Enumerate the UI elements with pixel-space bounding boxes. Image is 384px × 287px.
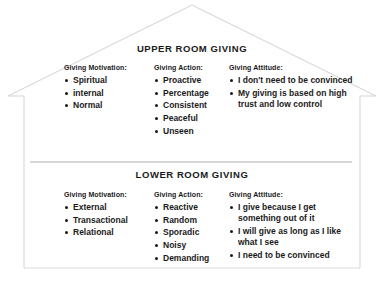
upper-room-title: UPPER ROOM GIVING bbox=[0, 43, 384, 54]
upper-room-columns: Giving Motivation: Spiritual internal No… bbox=[64, 64, 354, 139]
list-item: I don't need to be convinced bbox=[229, 75, 354, 86]
list-item: internal bbox=[64, 88, 154, 99]
list-item: I need to be convinced bbox=[229, 250, 354, 261]
lower-action-list: Reactive Random Sporadic Noisy Demanding bbox=[154, 202, 229, 266]
list-item: Random bbox=[154, 215, 229, 226]
list-item: My giving is based on high trust and low… bbox=[229, 88, 354, 110]
upper-motivation-list: Spiritual internal Normal bbox=[64, 75, 154, 113]
upper-attitude-heading: Giving Attitude: bbox=[229, 64, 354, 71]
list-item: Percentage bbox=[154, 88, 229, 99]
lower-column-action: Giving Action: Reactive Random Sporadic … bbox=[154, 191, 229, 266]
list-item: I will give as long as I like what I see bbox=[229, 226, 354, 248]
list-item: Spiritual bbox=[64, 75, 154, 86]
upper-column-action: Giving Action: Proactive Percentage Cons… bbox=[154, 64, 229, 139]
list-item: Unseen bbox=[154, 126, 229, 137]
upper-column-motivation: Giving Motivation: Spiritual internal No… bbox=[64, 64, 154, 113]
upper-motivation-heading: Giving Motivation: bbox=[64, 64, 154, 71]
list-item: External bbox=[64, 202, 154, 213]
lower-column-motivation: Giving Motivation: External Transactiona… bbox=[64, 191, 154, 240]
list-item: Peaceful bbox=[154, 113, 229, 124]
upper-action-list: Proactive Percentage Consistent Peaceful… bbox=[154, 75, 229, 139]
list-item: Transactional bbox=[64, 215, 154, 226]
house-diagram: UPPER ROOM GIVING Giving Motivation: Spi… bbox=[0, 0, 384, 287]
lower-room-title: LOWER ROOM GIVING bbox=[0, 169, 384, 180]
list-item: Proactive bbox=[154, 75, 229, 86]
list-item: Relational bbox=[64, 227, 154, 238]
list-item: Consistent bbox=[154, 100, 229, 111]
upper-action-heading: Giving Action: bbox=[154, 64, 229, 71]
lower-action-heading: Giving Action: bbox=[154, 191, 229, 198]
lower-column-attitude: Giving Attitude: I give because I get so… bbox=[229, 191, 354, 263]
upper-attitude-list: I don't need to be convinced My giving i… bbox=[229, 75, 354, 112]
lower-attitude-list: I give because I get something out of it… bbox=[229, 202, 354, 263]
lower-room-columns: Giving Motivation: External Transactiona… bbox=[64, 191, 354, 266]
upper-column-attitude: Giving Attitude: I don't need to be conv… bbox=[229, 64, 354, 112]
lower-motivation-heading: Giving Motivation: bbox=[64, 191, 154, 198]
list-item: Demanding bbox=[154, 253, 229, 264]
lower-attitude-heading: Giving Attitude: bbox=[229, 191, 354, 198]
list-item: I give because I get something out of it bbox=[229, 202, 354, 224]
list-item: Reactive bbox=[154, 202, 229, 213]
list-item: Normal bbox=[64, 100, 154, 111]
lower-motivation-list: External Transactional Relational bbox=[64, 202, 154, 240]
list-item: Noisy bbox=[154, 240, 229, 251]
list-item: Sporadic bbox=[154, 227, 229, 238]
